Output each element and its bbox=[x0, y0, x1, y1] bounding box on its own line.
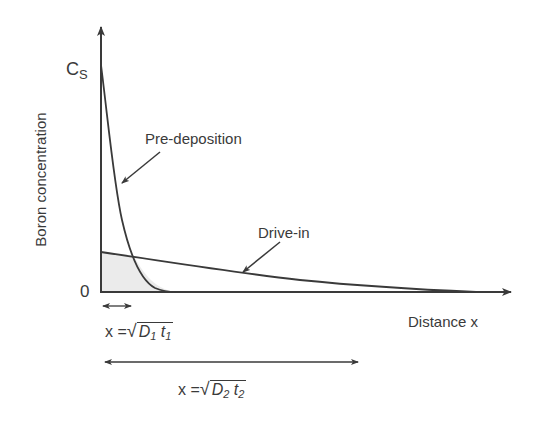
cs-main: C bbox=[66, 59, 79, 79]
eq2-t-sub: 2 bbox=[238, 388, 244, 400]
drive-in-pointer-arrow bbox=[243, 242, 280, 272]
sqrt-icon: √ bbox=[127, 321, 137, 341]
eq1-d-sub: 1 bbox=[150, 330, 156, 342]
cs-subscript: S bbox=[79, 67, 88, 82]
eq1-t-sub: 1 bbox=[165, 330, 171, 342]
eq2-d: D bbox=[212, 381, 224, 398]
x-axis-label: Distance x bbox=[408, 314, 478, 329]
sqrt-icon: √ bbox=[200, 379, 210, 399]
eq2-radicand: D2 t2 bbox=[210, 380, 247, 400]
eq1-lhs: x = bbox=[105, 323, 127, 340]
eq1-radicand: D1 t1 bbox=[137, 322, 174, 342]
eq2-lhs: x = bbox=[178, 381, 200, 398]
diffusion-length-2-equation: x =√D2 t2 bbox=[178, 380, 246, 400]
zero-label: 0 bbox=[80, 283, 89, 300]
eq1-d: D bbox=[139, 323, 151, 340]
pre-deposition-pointer-arrow bbox=[122, 152, 160, 183]
pre-deposition-label: Pre-deposition bbox=[145, 131, 242, 146]
y-axis-label: Boron concentration bbox=[33, 105, 48, 255]
eq2-d-sub: 2 bbox=[223, 388, 229, 400]
drive-in-label: Drive-in bbox=[258, 225, 310, 240]
surface-concentration-label: CS bbox=[66, 60, 88, 81]
diffusion-length-1-equation: x =√D1 t1 bbox=[105, 322, 173, 342]
